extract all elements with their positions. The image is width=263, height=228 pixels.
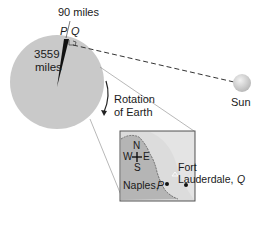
fort-label-line1: Fort xyxy=(178,161,197,173)
distance-label: 90 miles xyxy=(58,6,99,18)
earth-sun-diagram: 90 miles P Q 3559 miles Rotation of Eart… xyxy=(0,0,263,228)
naples-label: Naples, xyxy=(123,179,159,191)
naples-point-marker xyxy=(165,182,169,186)
radius-label-number: 3559 xyxy=(34,48,60,60)
fort-point-label: Q xyxy=(237,173,245,185)
compass-east-label: E xyxy=(143,151,150,163)
sun xyxy=(233,74,251,92)
rotation-label-line1: Rotation xyxy=(114,93,155,105)
fort-label-line2: Lauderdale, xyxy=(178,173,233,185)
radius-label-unit: miles xyxy=(35,61,62,73)
compass-south-label: S xyxy=(134,162,141,174)
point-q-label: Q xyxy=(71,25,80,37)
sun-label: Sun xyxy=(231,96,251,108)
compass-north-label: N xyxy=(133,140,140,152)
point-p-label: P xyxy=(60,25,67,37)
rotation-label-line2: of Earth xyxy=(114,106,153,118)
naples-point-label: P xyxy=(157,179,164,191)
compass-west-label: W xyxy=(123,151,132,163)
